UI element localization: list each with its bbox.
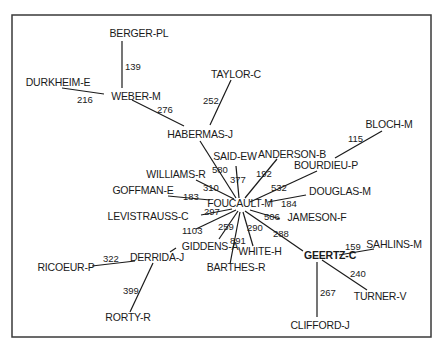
node-levistrauss-c: LEVISTRAUSS-C (108, 210, 189, 222)
node-bourdieu-p: BOURDIEU-P (294, 159, 358, 171)
node-geertz-c: GEERTZ-C (304, 249, 357, 261)
node-taylor-c: TAYLOR-C (211, 68, 262, 80)
node-goffman-e: GOFFMAN-E (112, 184, 173, 196)
edge-weight-label: 252 (203, 95, 219, 106)
citation-network-diagram: 1392162762525803771921155323101841832975… (0, 0, 445, 346)
node-sahlins-m: SAHLINS-M (366, 238, 421, 250)
node-rorty-r: RORTY-R (105, 311, 151, 323)
node-said-ew: SAID-EW (213, 150, 257, 162)
edges-layer (62, 41, 382, 317)
node-giddens-a: GIDDENS-A (182, 240, 239, 252)
edge-weight-label: 532 (271, 182, 287, 193)
node-williams-r: WILLIAMS-R (146, 168, 206, 180)
edge-weight-label: 276 (157, 104, 173, 115)
edge-weight-label: 192 (256, 168, 272, 179)
node-barthes-r: BARTHES-R (207, 261, 266, 273)
edge-weight-label: 377 (230, 174, 246, 185)
node-clifford-j: CLIFFORD-J (290, 319, 349, 331)
edge-weight-label: 259 (218, 221, 234, 232)
edge-weight-label: 506 (264, 211, 280, 222)
node-jameson-f: JAMESON-F (288, 211, 347, 223)
node-weber-m: WEBER-M (111, 90, 160, 102)
edge-weight-label: 240 (350, 268, 366, 279)
edge-weight-label: 1103 (182, 225, 202, 236)
edge-weight-label: 183 (183, 191, 199, 202)
edge-weight-label: 216 (77, 94, 93, 105)
node-white-h: WHITE-H (238, 245, 282, 257)
node-bloch-m: BLOCH-M (365, 118, 412, 130)
node-douglas-m: DOUGLAS-M (309, 185, 371, 197)
edge-weight-label: 139 (125, 61, 141, 72)
edge-weight-label: 580 (212, 164, 228, 175)
node-berger-pl: BERGER-PL (110, 27, 169, 39)
edge-weight-label: 184 (281, 198, 297, 209)
edge-weight-label: 288 (273, 228, 289, 239)
node-turner-v: TURNER-V (354, 290, 407, 302)
edge-weight-label: 290 (247, 222, 263, 233)
node-derrida-j: DERRIDA-J (130, 251, 184, 263)
edge-weight-label: 322 (103, 253, 119, 264)
node-habermas-j: HABERMAS-J (167, 128, 233, 140)
node-ricoeur-p: RICOEUR-P (37, 261, 94, 273)
edge-weight-label: 267 (320, 287, 336, 298)
edge-weight-label: 115 (348, 133, 363, 144)
node-durkheim-e: DURKHEIM-E (26, 76, 91, 88)
edge-weight-label: 399 (123, 285, 139, 296)
node-foucault-m: FOUCAULT-M (207, 197, 272, 209)
edge-weight-label: 310 (203, 182, 219, 193)
